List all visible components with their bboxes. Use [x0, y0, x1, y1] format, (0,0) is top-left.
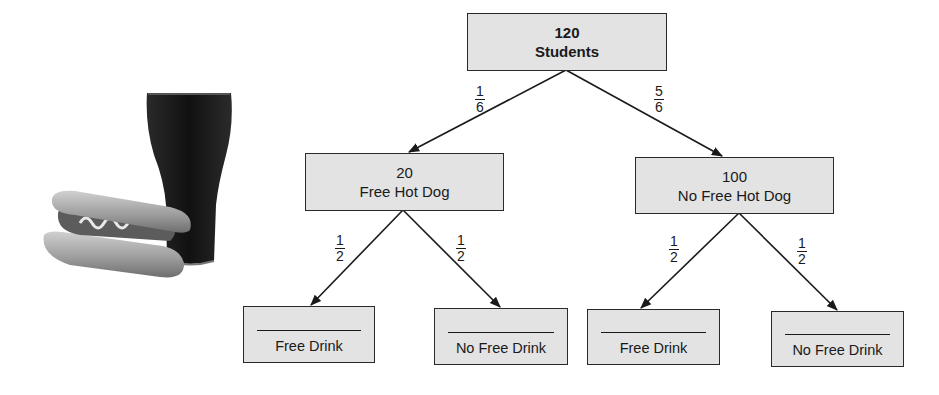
- node-count: 100: [722, 167, 747, 186]
- leaf-no-free-drink-2: No Free Drink: [771, 311, 904, 367]
- root-label: Students: [535, 42, 599, 61]
- numerator: 1: [457, 234, 465, 247]
- probability-free-drink-2: 1 2: [666, 235, 682, 264]
- probability-free-drink-1: 1 2: [332, 234, 348, 263]
- numerator: 1: [798, 237, 806, 250]
- answer-blank: [257, 330, 361, 331]
- numerator: 5: [655, 85, 663, 98]
- numerator: 1: [476, 85, 484, 98]
- numerator: 1: [336, 234, 344, 247]
- answer-blank: [785, 334, 890, 335]
- node-free-hot-dog: 20 Free Hot Dog: [305, 153, 504, 211]
- denominator: 2: [670, 251, 678, 264]
- arrow-root-to-nohotdog: [566, 70, 722, 156]
- leaf-label: Free Drink: [620, 339, 688, 358]
- denominator: 6: [476, 101, 484, 114]
- numerator: 1: [670, 235, 678, 248]
- denominator: 2: [798, 253, 806, 266]
- leaf-no-free-drink-1: No Free Drink: [434, 308, 568, 365]
- probability-no-free-hot-dog: 5 6: [651, 85, 667, 114]
- food-illustration: [30, 85, 245, 285]
- probability-no-free-drink-2: 1 2: [794, 237, 810, 266]
- leaf-label: Free Drink: [275, 337, 343, 356]
- node-label: No Free Hot Dog: [678, 186, 791, 205]
- probability-free-hot-dog: 1 6: [472, 85, 488, 114]
- leaf-label: No Free Drink: [456, 339, 546, 358]
- answer-blank: [448, 332, 554, 333]
- leaf-label: No Free Drink: [792, 341, 882, 360]
- probability-no-free-drink-1: 1 2: [453, 234, 469, 263]
- arrow-nohotdog-to-freedrink: [641, 213, 739, 308]
- node-count: 20: [396, 163, 413, 182]
- leaf-free-drink-1: Free Drink: [243, 306, 375, 363]
- answer-blank: [601, 332, 706, 333]
- denominator: 2: [457, 250, 465, 263]
- node-no-free-hot-dog: 100 No Free Hot Dog: [635, 157, 834, 214]
- arrow-nohotdog-to-nofreedrink: [739, 213, 837, 310]
- arrow-hotdog-to-nofreedrink: [403, 210, 500, 307]
- denominator: 2: [336, 250, 344, 263]
- root-count: 120: [554, 23, 579, 42]
- tree-diagram: 120 Students 1 6 5 6 20 Free Hot Dog 100…: [0, 0, 939, 395]
- denominator: 6: [655, 101, 663, 114]
- leaf-free-drink-2: Free Drink: [587, 309, 720, 365]
- arrow-hotdog-to-freedrink: [311, 210, 403, 305]
- node-label: Free Hot Dog: [359, 182, 449, 201]
- root-node: 120 Students: [467, 13, 667, 71]
